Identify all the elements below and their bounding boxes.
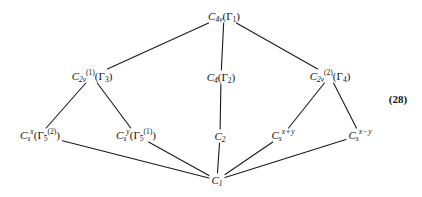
node-c1: C1 [210,175,223,186]
node-c4v: C4v(Γ1) [207,11,241,22]
lattice-edge-layer [0,0,422,197]
lattice-edge-c4v-c4 [221,23,223,70]
node-cs-y-irrep: (Γ5(1)) [130,129,156,141]
lattice-edge-csx-c1 [62,141,209,178]
node-c4v-irrep: (Γ1) [222,10,239,22]
node-c1-symbol: C1 [211,174,222,186]
node-cs-x-minus-y: Csx − y [347,130,372,141]
lattice-edge-c2v1-csx [46,83,86,128]
node-c4-irrep: (Γ2) [218,71,235,83]
node-cs-x: Csx(Γ5(2)) [19,130,61,141]
equation-number: (28) [389,93,407,105]
diagram-canvas: C4v(Γ1) C2v(1)(Γ3) C4(Γ2) C2v(2)(Γ4) Csx… [0,0,422,197]
node-cs-x-irrep: (Γ5(2)) [34,129,60,141]
node-c2v-2-irrep: (Γ4) [333,70,350,82]
node-c4-symbol: C4 [207,71,218,83]
node-c2v-1-irrep: (Γ3) [95,70,112,82]
node-c2v-2: C2v(2)(Γ4) [309,71,352,82]
node-c2v-2-symbol: C2v(2) [310,70,333,82]
node-c2: C2 [213,131,226,142]
node-c4v-symbol: C4v [208,10,222,22]
node-cs-x-plus-y: Csx + y [270,130,295,141]
lattice-edge-c2-c1 [217,143,219,173]
node-c2v-1-symbol: C2v(1) [72,70,95,82]
node-cs-x-plus-y-symbol: Csx + y [271,129,294,141]
node-cs-y: Csy(Γ5(1)) [115,130,157,141]
lattice-edge-c2v2-csxpy [289,83,325,128]
node-c4: C4(Γ2) [206,72,237,83]
lattice-edge-csxmy-c1 [225,139,346,177]
node-c2v-1: C2v(1)(Γ3) [71,71,114,82]
node-cs-x-symbol: Csx [20,129,34,141]
node-cs-x-minus-y-symbol: Csx − y [348,129,371,141]
lattice-edge-c4v-c2v2 [236,23,317,69]
lattice-edge-c2v2-csxmy [334,83,357,128]
lattice-edge-c4-c2 [220,84,221,129]
node-c2-symbol: C2 [214,130,225,142]
lattice-edge-c4v-c2v1 [107,23,208,69]
lattice-edge-c2v1-csy [97,83,131,128]
node-cs-y-symbol: Csy [116,129,130,141]
